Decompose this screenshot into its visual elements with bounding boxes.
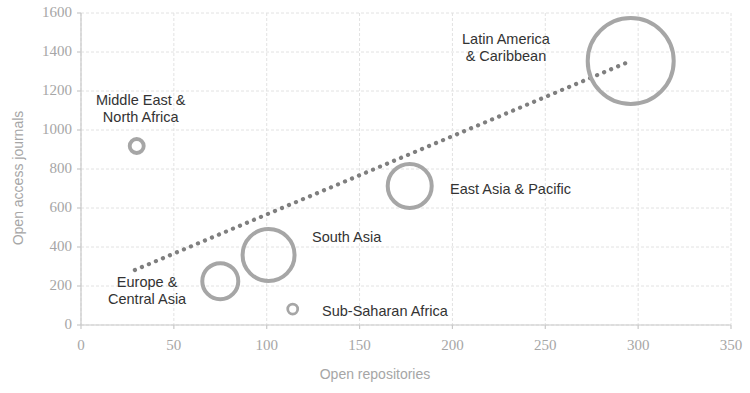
bubble-series (130, 18, 674, 314)
bubble-label-3: East Asia & Pacific (450, 181, 571, 198)
x-tick-label: 150 (337, 337, 383, 354)
bubble-6[interactable] (288, 304, 298, 314)
x-axis-title: Open repositories (0, 366, 750, 382)
x-tick-label: 50 (151, 337, 197, 354)
x-tick-label: 350 (708, 337, 750, 354)
y-tick-label: 600 (18, 199, 72, 216)
bubble-1[interactable] (130, 139, 144, 153)
y-axis-title: Open access journals (10, 98, 26, 258)
x-tick-label: 0 (58, 337, 104, 354)
y-tick-label: 400 (18, 238, 72, 255)
bubble-4[interactable] (243, 229, 295, 281)
y-tick-label: 1000 (18, 121, 72, 138)
plot-area (0, 0, 750, 393)
x-tick-label: 200 (429, 337, 475, 354)
x-tick-label: 300 (615, 337, 661, 354)
y-tick-label: 800 (18, 160, 72, 177)
bubble-label-6: Sub-Saharan Africa (322, 303, 448, 320)
y-tick-label: 1600 (18, 4, 72, 21)
y-tick-label: 0 (18, 316, 72, 333)
bubble-label-1: Middle East & North Africa (96, 92, 185, 126)
bubble-3[interactable] (388, 164, 432, 208)
bubble-label-4: South Asia (312, 229, 381, 246)
trendline-path (135, 61, 631, 270)
y-tick-label: 200 (18, 277, 72, 294)
bubble-5[interactable] (202, 263, 238, 299)
trendline (135, 61, 631, 270)
bubble-chart: 02004006008001000120014001600 0501001502… (0, 0, 750, 393)
x-tick-label: 100 (244, 337, 290, 354)
x-tick-label: 250 (522, 337, 568, 354)
y-tick-label: 1400 (18, 43, 72, 60)
y-tick-label: 1200 (18, 82, 72, 99)
bubble-label-2: Latin America & Caribbean (462, 31, 550, 65)
bubble-label-5: Europe & Central Asia (108, 274, 186, 308)
